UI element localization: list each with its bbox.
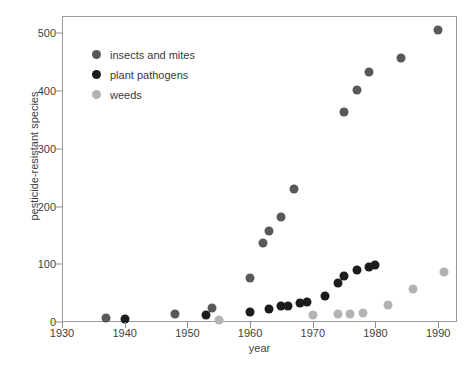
data-point: [365, 68, 374, 77]
legend-label: insects and mites: [110, 49, 195, 61]
data-point: [333, 310, 342, 319]
data-point: [440, 268, 449, 277]
legend-swatch-icon: [92, 90, 101, 99]
data-point: [352, 266, 361, 275]
figure: 0100200300400500 pesticide-resistant spe…: [0, 0, 472, 366]
data-point: [434, 26, 443, 35]
figure-caption: [36, 356, 456, 366]
data-point: [371, 260, 380, 269]
x-tick-label: 1950: [175, 327, 199, 339]
x-tick-label: 1970: [301, 327, 325, 339]
data-point: [384, 300, 393, 309]
data-point: [352, 86, 361, 95]
y-axis-label: pesticide-resistant species: [28, 56, 40, 256]
y-tick-label: 100: [6, 258, 56, 270]
legend-item-plant-pathogens: plant pathogens: [92, 66, 195, 83]
data-point: [302, 298, 311, 307]
data-point: [170, 309, 179, 318]
x-tick-mark: [250, 322, 251, 328]
legend-swatch-icon: [92, 70, 101, 79]
data-point: [277, 212, 286, 221]
data-point: [264, 305, 273, 314]
x-axis-label: year: [62, 342, 457, 354]
y-tick-label: 500: [6, 27, 56, 39]
data-point: [246, 307, 255, 316]
data-point: [208, 303, 217, 312]
x-tick-mark: [187, 322, 188, 328]
legend-item-insects-and-mites: insects and mites: [92, 46, 195, 63]
x-tick-label: 1990: [426, 327, 450, 339]
data-point: [340, 272, 349, 281]
legend: insects and mitesplant pathogensweeds: [92, 46, 195, 106]
x-tick-mark: [438, 322, 439, 328]
data-point: [214, 316, 223, 325]
data-point: [283, 301, 292, 310]
data-point: [321, 292, 330, 301]
data-point: [246, 274, 255, 283]
data-point: [258, 238, 267, 247]
x-tick-mark: [62, 322, 63, 328]
x-tick-label: 1940: [112, 327, 136, 339]
data-point: [396, 53, 405, 62]
data-point: [101, 313, 110, 322]
x-tick-label: 1930: [50, 327, 74, 339]
data-point: [340, 107, 349, 116]
data-point: [358, 309, 367, 318]
data-point: [264, 227, 273, 236]
data-point: [346, 309, 355, 318]
y-tick-label: 0: [6, 316, 56, 328]
legend-item-weeds: weeds: [92, 86, 195, 103]
x-tick-label: 1960: [238, 327, 262, 339]
legend-label: weeds: [110, 89, 142, 101]
x-tick-mark: [125, 322, 126, 328]
legend-swatch-icon: [92, 50, 101, 59]
legend-label: plant pathogens: [110, 69, 188, 81]
x-tick-mark: [375, 322, 376, 328]
x-tick-mark: [313, 322, 314, 328]
x-tick-label: 1980: [363, 327, 387, 339]
data-point: [308, 311, 317, 320]
data-point: [289, 185, 298, 194]
data-point: [409, 285, 418, 294]
data-point: [202, 311, 211, 320]
